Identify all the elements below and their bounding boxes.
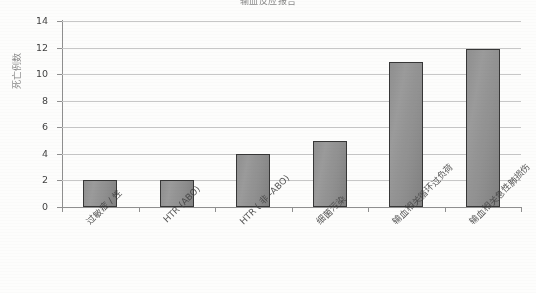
x-tick-mark: [62, 207, 63, 212]
gridline: [62, 101, 521, 102]
bar-chart: 输血反应报告 死亡例数 02468101214过敏症 / 性HTR (ABO)H…: [0, 0, 536, 293]
y-tick-label: 10: [14, 68, 48, 79]
y-tick-mark: [57, 154, 62, 155]
gridline: [62, 21, 521, 22]
x-tick-mark: [368, 207, 369, 212]
chart-title: 输血反应报告: [0, 0, 536, 7]
y-tick-label: 8: [14, 95, 48, 106]
y-tick-label: 14: [14, 15, 48, 26]
y-tick-mark: [57, 127, 62, 128]
y-tick-mark: [57, 48, 62, 49]
bar: [466, 49, 500, 207]
y-tick-mark: [57, 101, 62, 102]
gridline: [62, 127, 521, 128]
x-tick-mark: [445, 207, 446, 212]
y-tick-mark: [57, 74, 62, 75]
gridline: [62, 74, 521, 75]
bar: [389, 62, 423, 207]
x-tick-mark: [215, 207, 216, 212]
y-tick-mark: [57, 21, 62, 22]
x-tick-mark: [521, 207, 522, 212]
y-tick-label: 12: [14, 42, 48, 53]
x-tick-mark: [139, 207, 140, 212]
y-tick-mark: [57, 180, 62, 181]
y-tick-label: 2: [14, 174, 48, 185]
gridline: [62, 154, 521, 155]
y-tick-label: 0: [14, 201, 48, 212]
y-tick-label: 6: [14, 121, 48, 132]
gridline: [62, 48, 521, 49]
x-tick-mark: [292, 207, 293, 212]
y-tick-label: 4: [14, 148, 48, 159]
